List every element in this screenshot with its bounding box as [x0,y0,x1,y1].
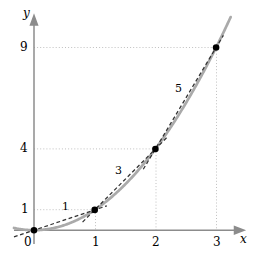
y-axis-arrowhead [31,16,38,26]
secant-lines [14,35,223,237]
chart-figure: y x 9 4 1 0 1 2 3 1 3 5 [0,0,254,262]
point-2-4 [152,146,159,153]
x-axis-label: x [240,233,247,245]
x-tick-label-2: 2 [152,236,160,248]
y-tick-label-1: 1 [21,203,29,215]
slope-annotation-1: 1 [62,201,69,212]
x-tick-label-3: 3 [213,236,221,248]
x-tick-label-0: 0 [24,236,32,248]
axes-lines [14,16,244,245]
y-tick-label-9: 9 [20,41,28,53]
point-3-9 [213,44,220,51]
data-points [31,44,220,233]
y-tick-label-4: 4 [20,142,28,154]
y-axis-label: y [23,7,30,19]
point-0-0 [31,227,38,234]
parabola-curve [14,17,231,230]
x-tick-label-1: 1 [92,236,100,248]
curve-y-equals-x-squared [14,17,231,230]
slope-annotation-3: 3 [115,165,122,176]
slope-annotation-5: 5 [175,83,182,94]
point-1-1 [91,207,98,214]
plot-canvas [0,0,254,262]
